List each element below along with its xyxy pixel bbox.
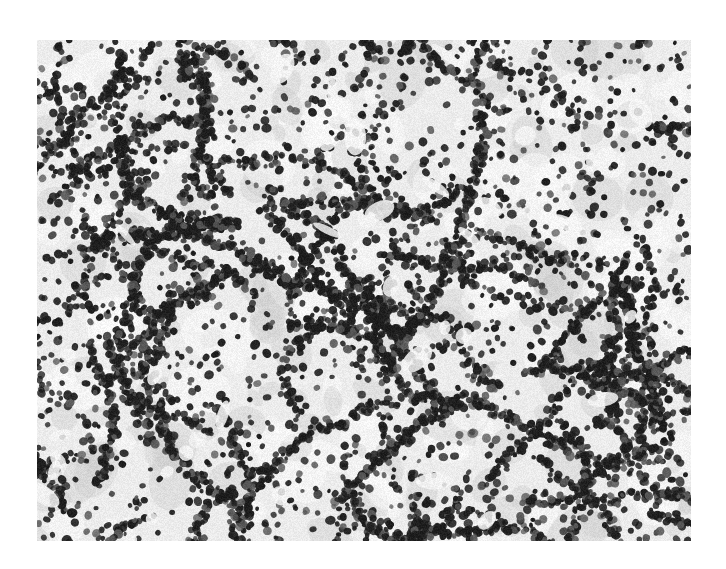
micrograph-canvas xyxy=(37,40,691,541)
micrograph-image xyxy=(37,40,691,541)
page xyxy=(0,0,726,569)
